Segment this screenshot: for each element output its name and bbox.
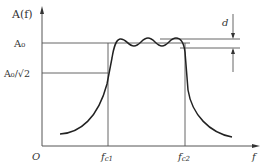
fc1-subscript: c1 — [105, 155, 113, 163]
x-axis-label: f — [251, 151, 258, 162]
origin-label: O — [32, 151, 40, 162]
bandpass-filter-diagram: A(f) A₀ A₀/√2 O fc1 fc2 f d — [0, 0, 268, 168]
ripple-d-label: d — [222, 17, 228, 28]
x-axis-arrow-icon — [252, 144, 260, 148]
a0-label: A₀ — [13, 38, 25, 49]
d-arrow-up-icon — [231, 48, 235, 54]
y-axis-label: A(f) — [11, 8, 33, 21]
fc1-label: fc1 — [100, 151, 113, 163]
fc2-subscript: c2 — [182, 155, 191, 163]
a0-sqrt2-label: A₀/√2 — [3, 68, 30, 79]
y-axis-arrow-icon — [40, 6, 44, 14]
fc2-label: fc2 — [177, 151, 191, 163]
response-curve — [60, 38, 232, 137]
d-arrow-down-icon — [231, 33, 235, 39]
axes — [42, 10, 256, 146]
